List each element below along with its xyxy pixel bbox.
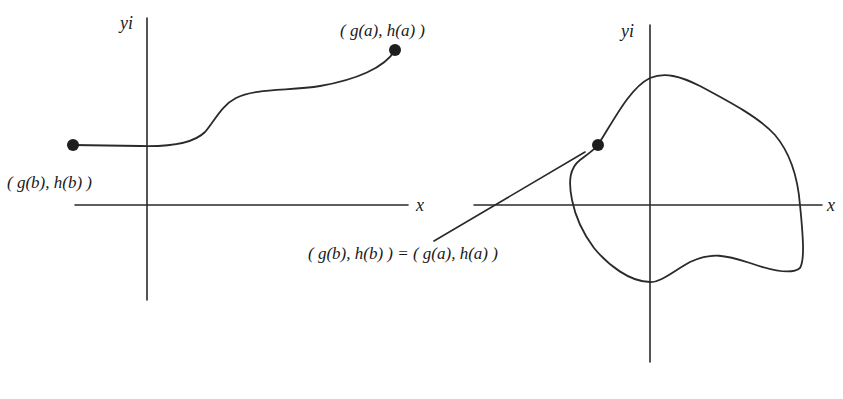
right-closed-curve	[570, 75, 803, 282]
start-point-label: ( g(b), h(b) )	[7, 174, 92, 191]
leader-line	[434, 152, 585, 241]
right-x-axis-label: x	[827, 196, 835, 214]
left-y-axis-label: yi	[120, 14, 133, 32]
right-closed-point	[592, 139, 604, 151]
left-x-axis-label: x	[416, 196, 424, 214]
diagram-canvas: yi x ( g(a), h(a) ) ( g(b), h(b) ) yi x …	[0, 0, 843, 399]
end-point-label: ( g(a), h(a) )	[340, 22, 425, 39]
right-y-axis-label: yi	[621, 22, 634, 40]
left-end-point	[389, 44, 401, 56]
left-start-point	[67, 139, 79, 151]
closed-point-label: ( g(b), h(b) ) = ( g(a), h(a) )	[308, 245, 498, 262]
left-open-curve	[73, 50, 395, 146]
